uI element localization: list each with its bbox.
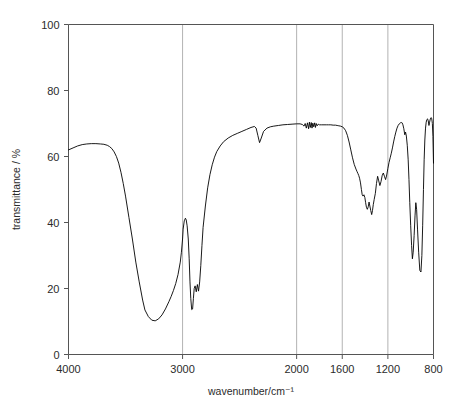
ir-spectrum-figure: 40003000200016001200800 020406080100 wav… <box>0 0 469 407</box>
x-tick-label: 4000 <box>56 363 80 375</box>
y-tick-label: 100 <box>41 19 59 31</box>
x-tick-label: 2000 <box>284 363 308 375</box>
x-axis-label: wavenumber/cm⁻¹ <box>207 385 295 397</box>
y-axis-label: transmittance / % <box>10 149 22 230</box>
x-tick-label: 3000 <box>170 363 194 375</box>
x-tick-label: 800 <box>424 363 442 375</box>
spectrum-plot: 40003000200016001200800 020406080100 wav… <box>0 0 469 407</box>
figure-background <box>0 0 469 407</box>
y-tick-label: 40 <box>47 217 59 229</box>
y-tick-label: 0 <box>53 349 59 361</box>
x-tick-label: 1600 <box>330 363 354 375</box>
y-tick-label: 20 <box>47 283 59 295</box>
y-tick-label: 60 <box>47 151 59 163</box>
x-tick-label: 1200 <box>376 363 400 375</box>
y-tick-label: 80 <box>47 85 59 97</box>
